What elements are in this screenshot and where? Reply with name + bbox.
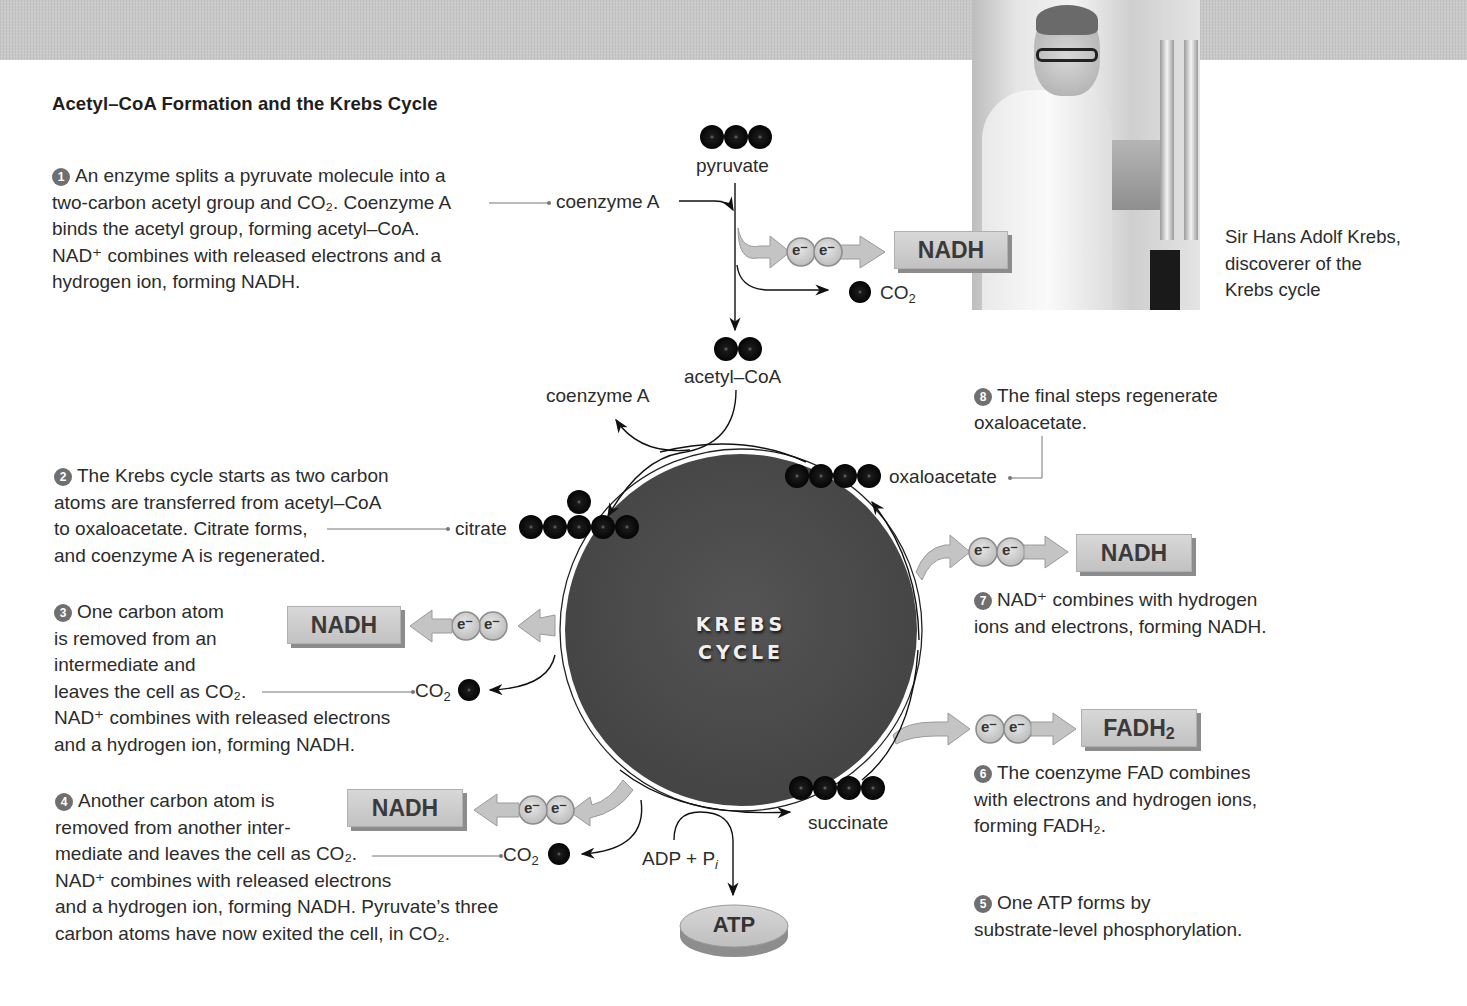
step-line: mediate and leaves the cell as CO₂. bbox=[55, 841, 535, 868]
electron-label: e⁻ bbox=[484, 615, 500, 633]
nadh-box-step7: NADH bbox=[1076, 534, 1192, 572]
step-line: forming FADH₂. bbox=[974, 813, 1294, 840]
adp-pi-label: ADP + Pi bbox=[642, 848, 718, 870]
step-number-badge: 1 bbox=[52, 168, 70, 186]
step-number-badge: 6 bbox=[974, 765, 992, 783]
coenzyme-a-out-label: coenzyme A bbox=[546, 385, 650, 407]
step-7-text: 7NAD⁺ combines with hydrogen ions and el… bbox=[974, 587, 1304, 640]
co2-atom bbox=[849, 281, 871, 303]
fadh2-box: FADH2 bbox=[1081, 709, 1197, 747]
fadh2-sub: 2 bbox=[1166, 725, 1175, 742]
coenzyme-a-in-label: coenzyme A bbox=[556, 191, 660, 213]
step-number-badge: 7 bbox=[974, 592, 992, 610]
step-6-text: 6The coenzyme FAD combines with electron… bbox=[974, 760, 1294, 840]
citrate-label: citrate bbox=[455, 518, 507, 540]
step-number-badge: 4 bbox=[55, 793, 73, 811]
step-2-text: 2The Krebs cycle starts as two carbon at… bbox=[54, 463, 434, 569]
electron-label: e⁻ bbox=[457, 615, 473, 633]
step-line: NAD⁺ combines with released electrons an… bbox=[52, 243, 492, 270]
step-line: atoms are transferred from acetyl–CoA bbox=[54, 490, 434, 517]
step-line: NAD⁺ combines with released electrons bbox=[55, 868, 535, 895]
electron-label: e⁻ bbox=[551, 799, 567, 817]
step-line: hydrogen ion, forming NADH. bbox=[52, 269, 492, 296]
krebs-cycle-label: KREBS CYCLE bbox=[696, 610, 787, 666]
step-line: NAD⁺ combines with hydrogen bbox=[997, 589, 1257, 610]
step-4-text: 4Another carbon atom is removed from ano… bbox=[55, 788, 535, 947]
step-line: The final steps regenerate bbox=[997, 385, 1218, 406]
cycle-label-line: CYCLE bbox=[696, 638, 787, 666]
step-line: carbon atoms have now exited the cell, i… bbox=[55, 921, 535, 948]
oxaloacetate-label: oxaloacetate bbox=[889, 466, 997, 488]
step-line: ions and electrons, forming NADH. bbox=[974, 614, 1304, 641]
step-line: Another carbon atom is bbox=[78, 790, 274, 811]
step-line: and coenzyme A is regenerated. bbox=[54, 543, 434, 570]
acetyl-coa-atoms bbox=[714, 337, 762, 361]
step-3-text: 3One carbon atom is removed from an inte… bbox=[54, 599, 434, 758]
step-line: is removed from an bbox=[54, 626, 434, 653]
step-number-badge: 2 bbox=[54, 468, 72, 486]
step-line: with electrons and hydrogen ions, bbox=[974, 787, 1294, 814]
pyruvate-label: pyruvate bbox=[696, 155, 769, 177]
succinate-label: succinate bbox=[808, 812, 888, 834]
co2-sub: 2 bbox=[909, 291, 916, 306]
step-line: An enzyme splits a pyruvate molecule int… bbox=[75, 165, 446, 186]
step-8-text: 8The final steps regenerate oxaloacetate… bbox=[974, 383, 1304, 436]
co2-atom bbox=[458, 679, 480, 701]
co2-text: CO bbox=[880, 282, 909, 303]
step-line: to oxaloacetate. Citrate forms, bbox=[54, 516, 434, 543]
step-5-text: 5One ATP forms by substrate-level phosph… bbox=[974, 890, 1294, 943]
co2-sub: 2 bbox=[444, 689, 451, 704]
electron-label: e⁻ bbox=[792, 241, 808, 259]
step-line: The coenzyme FAD combines bbox=[997, 762, 1250, 783]
step-1-text: 1An enzyme splits a pyruvate molecule in… bbox=[52, 163, 492, 296]
nadh-box-top: NADH bbox=[894, 231, 1008, 269]
step-line: binds the acetyl group, forming acetyl–C… bbox=[52, 216, 492, 243]
step-line: The Krebs cycle starts as two carbon bbox=[77, 465, 389, 486]
step-number-badge: 8 bbox=[974, 388, 992, 406]
co2-atom bbox=[548, 843, 570, 865]
step-line: and a hydrogen ion, forming NADH. Pyruva… bbox=[55, 894, 535, 921]
step-line: leaves the cell as CO₂. bbox=[54, 679, 434, 706]
step-number-badge: 5 bbox=[974, 895, 992, 913]
step-line: oxaloacetate. bbox=[974, 410, 1304, 437]
pyruvate-atoms bbox=[700, 125, 772, 149]
acetyl-coa-label: acetyl–CoA bbox=[684, 366, 781, 388]
step-line: One ATP forms by bbox=[997, 892, 1150, 913]
electron-arrow-step7 bbox=[916, 535, 1068, 580]
electron-arrow-top bbox=[738, 228, 885, 268]
electron-label: e⁻ bbox=[974, 541, 990, 559]
atp-label: ATP bbox=[713, 912, 755, 938]
step-number-badge: 3 bbox=[54, 604, 72, 622]
electron-label: e⁻ bbox=[1009, 718, 1025, 736]
electron-label: e⁻ bbox=[1002, 541, 1018, 559]
step-line: removed from another inter- bbox=[55, 815, 535, 842]
step-line: substrate-level phosphorylation. bbox=[974, 917, 1294, 944]
step-line: One carbon atom bbox=[77, 601, 224, 622]
succinate-atoms bbox=[789, 776, 885, 800]
electron-label: e⁻ bbox=[819, 241, 835, 259]
pi-sub: i bbox=[715, 857, 718, 872]
cycle-label-line: KREBS bbox=[696, 610, 787, 638]
electron-label: e⁻ bbox=[981, 718, 997, 736]
step-line: intermediate and bbox=[54, 652, 434, 679]
co2-label-top: CO2 bbox=[880, 282, 916, 304]
fadh2-label: FADH bbox=[1103, 715, 1166, 741]
adp-text: ADP + P bbox=[642, 848, 715, 869]
step-line: two-carbon acetyl group and CO₂. Coenzym… bbox=[52, 190, 492, 217]
step-line: and a hydrogen ion, forming NADH. bbox=[54, 732, 434, 759]
step-line: NAD⁺ combines with released electrons bbox=[54, 705, 434, 732]
